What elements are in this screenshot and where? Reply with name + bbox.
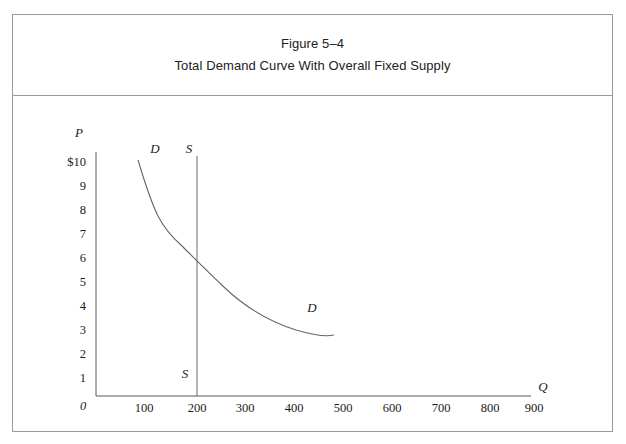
x-tick-label-100: 100 xyxy=(135,401,154,415)
y-tick-label-9: 9 xyxy=(80,179,86,193)
y-tick-label-8: 8 xyxy=(80,203,86,217)
y-tick-label-2: 2 xyxy=(80,347,86,361)
supply-demand-chart: P $10 9 8 7 6 5 4 3 2 1 0 Q 100 200 300 … xyxy=(13,96,614,432)
demand-label-top: D xyxy=(149,141,160,156)
figure-title-band: Figure 5–4 Total Demand Curve With Overa… xyxy=(13,15,612,96)
supply-label-top: S xyxy=(186,141,193,156)
x-tick-label-900: 900 xyxy=(525,401,544,415)
x-tick-label-400: 400 xyxy=(285,401,304,415)
y-axis-label: P xyxy=(74,125,83,140)
figure-title: Total Demand Curve With Overall Fixed Su… xyxy=(174,55,450,77)
x-tick-label-800: 800 xyxy=(481,401,500,415)
y-tick-label-1: 1 xyxy=(80,371,86,385)
x-tick-label-600: 600 xyxy=(383,401,402,415)
y-tick-label-10: $10 xyxy=(67,155,86,169)
origin-label: 0 xyxy=(80,399,87,413)
demand-curve xyxy=(138,160,334,336)
x-tick-label-200: 200 xyxy=(188,401,207,415)
y-tick-label-7: 7 xyxy=(80,227,86,241)
demand-label-right: D xyxy=(306,300,317,315)
y-tick-label-4: 4 xyxy=(80,299,87,313)
figure-number: Figure 5–4 xyxy=(281,33,344,55)
x-tick-label-500: 500 xyxy=(334,401,353,415)
x-axis-label: Q xyxy=(538,379,548,394)
chart-plot-area: P $10 9 8 7 6 5 4 3 2 1 0 Q 100 200 300 … xyxy=(13,96,614,432)
x-tick-label-300: 300 xyxy=(236,401,255,415)
y-tick-label-6: 6 xyxy=(80,251,86,265)
supply-label-bottom: S xyxy=(182,366,189,381)
y-tick-label-5: 5 xyxy=(80,275,86,289)
figure-frame: Figure 5–4 Total Demand Curve With Overa… xyxy=(12,14,613,432)
y-tick-label-3: 3 xyxy=(80,323,86,337)
x-tick-label-700: 700 xyxy=(432,401,451,415)
